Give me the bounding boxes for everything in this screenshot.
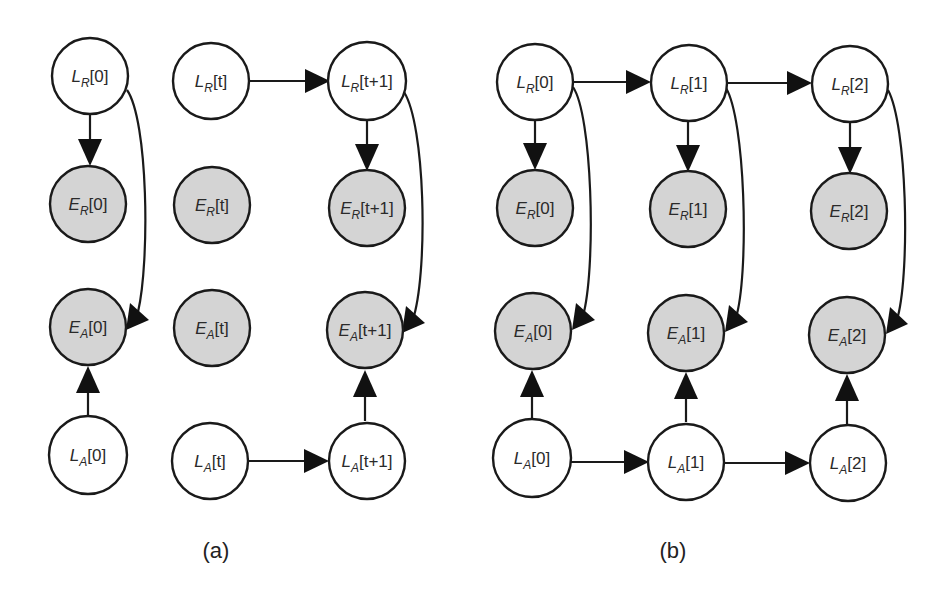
dbn-figure: LR[0] ER[0] EA[0] LA[0] LR[t] ER[t] EA[t…: [0, 0, 952, 599]
edge-b-LA1-EA1: [674, 372, 698, 422]
node-b-LR0: LR[0]: [497, 44, 573, 120]
node-b-ER0: ER[0]: [497, 170, 573, 246]
edge-b-LA0-EA0: [520, 370, 544, 419]
edge-b-LR1-EA1: [725, 88, 748, 332]
panel-a: LR[0] ER[0] EA[0] LA[0] LR[t] ER[t] EA[t…: [49, 38, 425, 563]
node-b-LA2: LA[2]: [810, 425, 886, 501]
edge-a-LR0-EA0: [126, 90, 149, 330]
node-b-LA1: LA[1]: [648, 424, 724, 500]
edge-b-LR1-LR2: [727, 71, 812, 95]
edge-a-LR0-ER0: [78, 115, 102, 166]
edge-b-LR1-ER1: [676, 122, 700, 172]
edge-b-LR2-ER2: [838, 123, 862, 174]
node-a-ER0: ER[0]: [50, 166, 126, 242]
node-a-LR0: LR[0]: [52, 38, 128, 114]
edge-a-LAt-LAt1: [248, 449, 329, 473]
node-a-EA0: EA[0]: [50, 289, 126, 365]
node-a-LAt1: LA[t+1]: [329, 423, 405, 499]
panel-a-caption: (a): [203, 538, 230, 563]
edge-a-LAt1-EAt1: [353, 370, 377, 421]
node-b-ER2: ER[2]: [811, 173, 887, 249]
node-b-LR1: LR[1]: [651, 45, 727, 121]
edge-a-LRt-LRt1: [248, 69, 330, 93]
node-a-EAt1: EA[t+1]: [327, 292, 403, 368]
node-a-ERt1: ER[t+1]: [329, 170, 405, 246]
edge-b-LA2-EA2: [835, 374, 859, 424]
panel-b: LR[0] ER[0] EA[0] LA[0] LR[1] ER[1] EA[1…: [493, 44, 908, 563]
node-b-EA1: EA[1]: [648, 295, 724, 371]
node-a-LA0: LA[0]: [49, 416, 127, 494]
edge-b-LR0-ER0: [523, 120, 547, 170]
edge-a-LA0-EA0: [76, 366, 100, 416]
edge-b-LR0-LR1: [573, 70, 651, 94]
node-a-LAt: LA[t]: [172, 423, 248, 499]
node-b-LR2: LR[2]: [812, 46, 888, 122]
node-a-LRt1: LR[t+1]: [328, 42, 406, 120]
edge-b-LR0-EA0: [572, 87, 595, 330]
edge-b-LR2-EA2: [886, 90, 908, 334]
node-b-EA2: EA[2]: [809, 297, 885, 373]
node-a-LRt: LR[t]: [173, 43, 249, 119]
node-b-LA0: LA[0]: [493, 419, 571, 497]
panel-b-caption: (b): [660, 538, 687, 563]
edge-b-LA1-LA2: [724, 451, 810, 475]
node-b-EA0: EA[0]: [495, 293, 571, 369]
node-a-ERt: ER[t]: [174, 167, 250, 243]
edge-b-LA0-LA1: [571, 450, 649, 474]
edge-a-LRt1-ERt1: [355, 120, 379, 171]
node-b-ER1: ER[1]: [650, 171, 726, 247]
node-a-EAt: EA[t]: [174, 290, 250, 366]
